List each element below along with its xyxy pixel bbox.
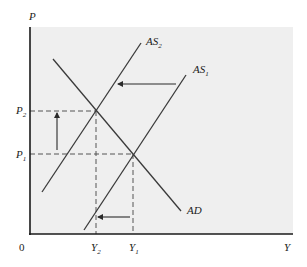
y-axis-label: P — [28, 10, 36, 22]
p1-label: P1 — [15, 148, 26, 163]
y1-label: Y1 — [129, 241, 139, 256]
ad-as-diagram: P Y 0 AS2 AS1 AD P2 P1 Y2 Y1 — [0, 0, 307, 267]
plot-area — [30, 27, 293, 234]
origin-label: 0 — [19, 241, 25, 253]
x-axis-label: Y — [284, 241, 292, 253]
p2-label: P2 — [15, 104, 27, 119]
y2-label: Y2 — [91, 241, 101, 256]
ad-label: AD — [186, 204, 202, 216]
